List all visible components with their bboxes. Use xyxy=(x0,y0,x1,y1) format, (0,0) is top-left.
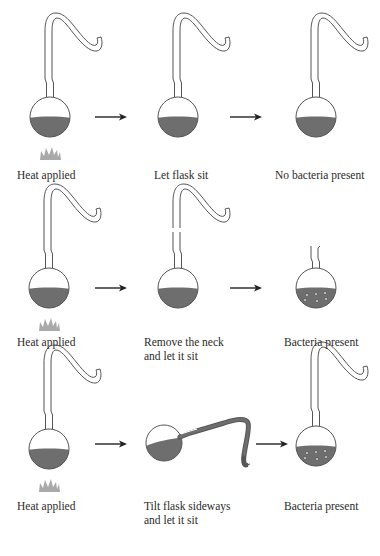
arrow-icon xyxy=(256,441,288,448)
label-remove-neck-line1: Remove the neck xyxy=(144,335,224,349)
label-tilt-flask-line1: Tilt flask sideways xyxy=(144,499,230,513)
label-heat-applied: Heat applied xyxy=(17,335,75,349)
swan-neck-flask-diagram xyxy=(0,0,380,556)
flame-icon xyxy=(39,318,60,331)
flame-icon xyxy=(39,479,60,492)
row3-step1-flask xyxy=(28,345,101,471)
arrow-icon xyxy=(95,285,127,292)
flame-icon xyxy=(40,147,61,160)
label-bacteria-present: Bacteria present xyxy=(284,335,358,349)
label-no-bacteria: No bacteria present xyxy=(275,168,364,182)
label-heat-applied: Heat applied xyxy=(17,168,75,182)
row1-step2-flask xyxy=(157,13,230,139)
row2-step2-flask-neck-cut xyxy=(157,184,230,310)
label-heat-applied: Heat applied xyxy=(17,499,75,513)
row2-step3-flask-open xyxy=(295,246,337,310)
label-remove-neck-line2: and let it sit xyxy=(144,349,198,363)
arrow-icon xyxy=(230,285,262,292)
row1-step3-flask xyxy=(295,13,368,139)
row2-step1-flask xyxy=(28,184,101,310)
row3-step3-flask xyxy=(295,342,368,468)
row1-step1-flask xyxy=(29,13,102,139)
row3-step2-flask-tilted xyxy=(144,420,250,465)
label-let-flask-sit: Let flask sit xyxy=(154,168,208,182)
arrow-icon xyxy=(95,114,127,121)
label-tilt-flask-line2: and let it sit xyxy=(144,513,198,527)
label-bacteria-present: Bacteria present xyxy=(284,499,358,513)
arrow-icon xyxy=(230,114,262,121)
arrow-icon xyxy=(95,441,127,448)
